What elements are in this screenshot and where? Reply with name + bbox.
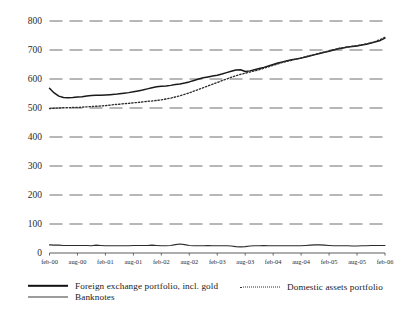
dotted-line-icon bbox=[240, 282, 280, 292]
legend-item-domestic-assets-portfolio: Domestic assets portfolio bbox=[240, 282, 383, 292]
x-axis-tick-label: aug-00 bbox=[69, 258, 87, 265]
data-series-group bbox=[50, 37, 386, 247]
solid-thin-line-icon bbox=[28, 292, 68, 302]
y-axis-tick-label: 700 bbox=[28, 45, 43, 55]
series-line-foreign-exchange-portfolio-incl-gold bbox=[50, 38, 386, 98]
solid-thick-line-icon bbox=[28, 281, 68, 291]
legend-item-label: Foreign exchange portfolio, incl. gold bbox=[75, 281, 218, 291]
y-axis-tick-labels: 0100200300400500600700800 bbox=[28, 16, 43, 258]
y-axis-tick-label: 200 bbox=[28, 190, 43, 200]
plot-area: 0100200300400500600700800 feb-00aug-00fe… bbox=[0, 0, 400, 278]
series-line-banknotes bbox=[50, 244, 386, 247]
chart-figure: 0100200300400500600700800 feb-00aug-00fe… bbox=[0, 0, 400, 323]
x-axis-tick-label: aug-04 bbox=[292, 258, 311, 265]
y-axis-tick-label: 400 bbox=[28, 132, 43, 142]
x-axis-tick-label: aug-05 bbox=[348, 258, 366, 265]
x-axis-tick-label: feb-06 bbox=[377, 258, 394, 265]
y-axis-tick-label: 100 bbox=[28, 219, 43, 229]
x-axis-tick-label: feb-03 bbox=[209, 258, 226, 265]
x-axis-tick-label: feb-05 bbox=[321, 258, 338, 265]
legend-item-foreign-exchange-portfolio: Foreign exchange portfolio, incl. gold bbox=[28, 281, 218, 291]
x-axis-tick-label: feb-00 bbox=[41, 258, 58, 265]
x-axis-tick-label: feb-01 bbox=[97, 258, 114, 265]
y-axis-tick-label: 800 bbox=[28, 16, 43, 26]
x-axis-tick-label: aug-01 bbox=[125, 258, 143, 265]
series-line-domestic-assets-portfolio bbox=[50, 37, 386, 108]
legend-item-label: Domestic assets portfolio bbox=[287, 282, 383, 292]
y-axis-tick-label: 300 bbox=[28, 161, 43, 171]
y-axis-tick-label: 600 bbox=[28, 74, 43, 84]
y-axis-tick-label: 500 bbox=[28, 103, 43, 113]
chart-legend: Foreign exchange portfolio, incl. gold D… bbox=[0, 281, 400, 321]
x-axis-tick-label: aug-03 bbox=[236, 258, 254, 265]
y-axis-tick-label: 0 bbox=[37, 248, 42, 258]
x-axis-line-group bbox=[50, 253, 386, 256]
gridlines-group bbox=[50, 21, 386, 224]
x-axis-tick-label: aug-02 bbox=[180, 258, 198, 265]
legend-item-banknotes: Banknotes bbox=[28, 292, 115, 302]
x-axis-tick-label: feb-02 bbox=[153, 258, 170, 265]
line-chart-svg: 0100200300400500600700800 feb-00aug-00fe… bbox=[0, 0, 400, 278]
x-axis-tick-labels: feb-00aug-00feb-01aug-01feb-02aug-02feb-… bbox=[41, 258, 393, 265]
x-axis-tick-label: feb-04 bbox=[265, 258, 282, 265]
legend-item-label: Banknotes bbox=[75, 292, 115, 302]
